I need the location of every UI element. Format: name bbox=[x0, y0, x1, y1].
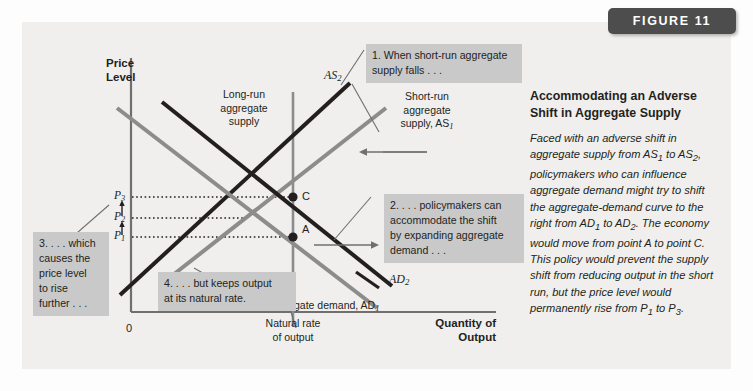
lras-label: Long-run aggregate supply bbox=[202, 88, 286, 129]
as1-label-line2: aggregate bbox=[381, 104, 473, 118]
as1-subscript: 1 bbox=[449, 122, 453, 132]
figure-caption: Accommodating an Adverse Shift in Aggreg… bbox=[530, 88, 716, 320]
callout-1-leader bbox=[341, 50, 364, 85]
callout-3: 3. . . . which causes the price level to… bbox=[33, 232, 109, 316]
as-shift-arrow-head bbox=[359, 148, 367, 156]
callout-3-line4: to rise bbox=[39, 281, 103, 296]
as1-label-line3-text: supply, AS bbox=[400, 117, 449, 129]
ad2-label-text: AD bbox=[389, 272, 405, 286]
callout-2: 2. . . . policymakers can accommodate th… bbox=[384, 194, 524, 263]
callout-3-line3: price level bbox=[39, 266, 103, 281]
callout-1: 1. When short-run aggregate supply falls… bbox=[366, 44, 522, 83]
as1-label-line1: Short-run bbox=[381, 90, 473, 104]
callout-2-line1: 2. . . . policymakers can bbox=[390, 198, 518, 213]
x-tick-line1: Natural rate bbox=[238, 317, 348, 331]
y-axis-title-line2: Level bbox=[106, 70, 135, 84]
ad2-subscript: 2 bbox=[405, 277, 409, 287]
as2-label: AS2 bbox=[324, 68, 342, 84]
callout-1-line1: 1. When short-run aggregate bbox=[372, 48, 516, 63]
as1-label: Short-run aggregate supply, AS1 bbox=[381, 90, 473, 133]
callout-2-line2: accommodate the shift bbox=[390, 213, 518, 228]
lras-label-line1: Long-run bbox=[202, 88, 286, 102]
origin-label: 0 bbox=[126, 322, 132, 335]
callout-3-line1: 3. . . . which bbox=[39, 236, 103, 251]
price-label-p1: P1 bbox=[114, 228, 125, 244]
x-tick-line2: of output bbox=[238, 331, 348, 345]
p2-subscript: 2 bbox=[121, 215, 125, 224]
callout-2-line3: by expanding aggregate bbox=[390, 228, 518, 243]
p2-letter: P bbox=[114, 210, 121, 222]
point-c-marker bbox=[288, 192, 297, 201]
callout-2-line4: demand . . . bbox=[390, 243, 518, 258]
point-a-label: A bbox=[302, 223, 309, 236]
caption-title: Accommodating an Adverse Shift in Aggreg… bbox=[530, 88, 716, 121]
lras-label-line3: supply bbox=[202, 115, 286, 129]
p1-letter: P bbox=[114, 229, 121, 241]
as2-label-text: AS bbox=[324, 68, 337, 82]
figure-root: FIGURE 11 bbox=[0, 0, 753, 391]
callout-1-line2: supply falls . . . bbox=[372, 63, 516, 78]
figure-number-tab: FIGURE 11 bbox=[608, 8, 736, 34]
point-a-marker bbox=[288, 232, 297, 241]
x-axis-title-line1: Quantity of bbox=[391, 316, 496, 330]
ad-shift-arrow-head bbox=[371, 241, 379, 249]
ad1-subscript: 1 bbox=[375, 303, 379, 313]
y-axis-title-line1: Price bbox=[106, 56, 135, 70]
callout-4-line1: 4. . . . but keeps output bbox=[164, 276, 290, 291]
as1-label-line3: supply, AS1 bbox=[381, 117, 473, 132]
y-axis-title: Price Level bbox=[106, 56, 135, 84]
caption-body: Faced with an adverse shift in aggregate… bbox=[530, 130, 716, 320]
callout-3-line2: causes the bbox=[39, 251, 103, 266]
figure-number-label: FIGURE 11 bbox=[633, 14, 711, 28]
ad2-label: AD2 bbox=[389, 272, 409, 288]
p3-letter: P bbox=[114, 189, 121, 201]
x-tick-natural-rate: Natural rate of output bbox=[238, 317, 348, 344]
p3-subscript: 3 bbox=[121, 194, 125, 203]
price-label-p2: P2 bbox=[114, 209, 125, 225]
point-c-label: C bbox=[302, 190, 310, 203]
p1-subscript: 1 bbox=[121, 234, 125, 243]
x-axis-title-line2: Output bbox=[391, 330, 496, 344]
as2-subscript: 2 bbox=[337, 73, 341, 83]
callout-4-line2: at its natural rate. bbox=[164, 291, 290, 306]
callout-2-leader bbox=[334, 197, 371, 240]
price-label-p3: P3 bbox=[114, 188, 125, 204]
lras-label-line2: aggregate bbox=[202, 102, 286, 116]
callout-3-line5: further . . . bbox=[39, 296, 103, 311]
callout-4: 4. . . . but keeps output at its natural… bbox=[158, 272, 296, 311]
x-axis-title: Quantity of Output bbox=[391, 316, 496, 344]
